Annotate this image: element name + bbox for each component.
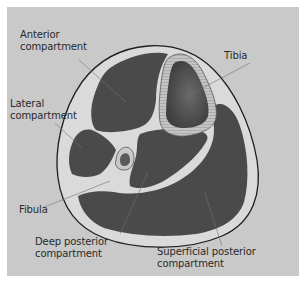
label-line: Deep posterior xyxy=(35,236,108,248)
label-line: Lateral xyxy=(10,98,77,110)
deep-posterior-compartment-label: Deep posterior compartment xyxy=(35,236,108,260)
label-line: compartment xyxy=(20,41,87,53)
anterior-compartment-label: Anterior compartment xyxy=(20,29,87,53)
superficial-posterior-compartment-label: Superficial posterior compartment xyxy=(157,246,256,270)
label-line: Tibia xyxy=(224,50,247,62)
label-line: Fibula xyxy=(19,204,48,216)
fibula-label: Fibula xyxy=(19,204,48,216)
tibia-label: Tibia xyxy=(224,50,247,62)
label-line: compartment xyxy=(157,258,256,270)
label-line: Superficial posterior xyxy=(157,246,256,258)
label-line: Anterior xyxy=(20,29,87,41)
label-line: compartment xyxy=(10,110,77,122)
lateral-compartment-label: Lateral compartment xyxy=(10,98,77,122)
label-line: compartment xyxy=(35,248,108,260)
